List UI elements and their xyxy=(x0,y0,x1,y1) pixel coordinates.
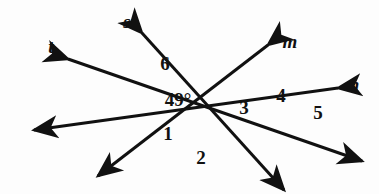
angle-5-label: 5 xyxy=(313,103,323,122)
angle-4-label: 4 xyxy=(276,86,286,105)
angle-6-label: 6 xyxy=(160,54,170,73)
angle-3-label: 3 xyxy=(239,98,249,117)
angle-49-label: 49° xyxy=(165,90,192,109)
line-label-s: s xyxy=(123,12,130,31)
line-label-n: n xyxy=(349,75,360,94)
angle-2-label: 2 xyxy=(196,148,206,167)
angle-1-label: 1 xyxy=(163,124,173,143)
geometry-figure-page: { "figure": { "title": "Four intersectin… xyxy=(0,0,379,194)
line-label-t: t xyxy=(48,37,53,56)
line-label-m: m xyxy=(283,32,298,51)
